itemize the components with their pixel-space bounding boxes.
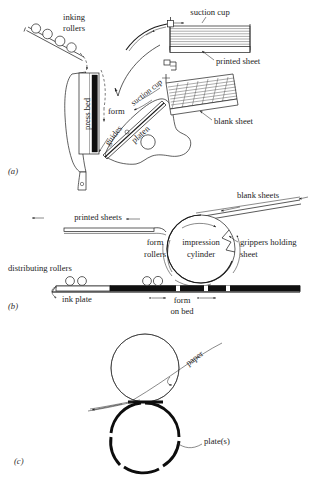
label-paper: paper — [184, 348, 205, 368]
label-grippers-line2: sheet — [240, 249, 258, 259]
inking-roller-1 — [31, 24, 40, 33]
printed-sheet-board — [170, 47, 250, 53]
label-printed-sheet: printed sheet — [216, 56, 261, 66]
blank-sheet-leader — [200, 111, 212, 120]
label-form-rollers-line2: rollers — [144, 249, 167, 259]
panel-c-id: (c) — [14, 456, 24, 466]
plate-cylinder-group — [111, 403, 179, 473]
form-roller-1 — [143, 277, 152, 286]
paper-exit-arrow — [92, 404, 122, 410]
form-strip — [92, 75, 97, 152]
panel-c-diagram: paper plate(s) (c) — [14, 334, 230, 473]
label-form-rollers-line1: form — [147, 237, 164, 247]
label-form-on-bed-line2: on bed — [170, 306, 194, 316]
label-distributing-rollers: distributing rollers — [8, 263, 72, 273]
plates-leader — [177, 443, 202, 448]
label-form: form — [108, 106, 125, 116]
inking-roller-4 — [67, 43, 76, 52]
panel-a-id: (a) — [8, 166, 18, 176]
label-blank-sheets: blank sheets — [237, 190, 280, 200]
bed-travel-arc — [101, 70, 105, 108]
blank-sheets-arrow-right — [299, 197, 308, 199]
label-inking-rollers-line2: rollers — [63, 23, 86, 33]
label-inking-rollers-line1: inking — [63, 12, 86, 22]
label-plates: plate(s) — [204, 436, 230, 446]
label-blank-sheet: blank sheet — [214, 116, 254, 126]
figure-canvas: inking rollers press bed form — [0, 0, 314, 489]
panel-b-diagram: blank sheets printed sheets — [8, 190, 308, 316]
ink-plate — [56, 286, 110, 291]
printed-sheets-exit-group — [64, 228, 166, 235]
suction-cup-head-lower — [164, 60, 170, 65]
label-impression-cylinder-line2: cylinder — [187, 249, 215, 259]
form-roller-2 — [153, 276, 162, 285]
panel-b-id: (b) — [8, 301, 18, 311]
distributing-roller-2 — [78, 277, 87, 286]
blank-sheet-stack-group — [166, 74, 238, 115]
label-printed-sheets: printed sheets — [74, 212, 122, 222]
label-suction-cup-top: suction cup — [190, 7, 229, 17]
label-grippers-line1: grippers holding — [240, 237, 297, 247]
inking-roller-3 — [55, 36, 65, 46]
suction-cup-top-leader — [202, 17, 206, 23]
label-ink-plate: ink plate — [62, 294, 92, 304]
suction-cup-arm-group — [162, 60, 176, 83]
inking-roller-2 — [43, 29, 53, 39]
press-leg — [78, 172, 86, 190]
label-impression-cylinder-line1: impression — [182, 237, 220, 247]
printed-sheet-stack-group — [126, 17, 250, 53]
impression-cylinder-c — [111, 334, 179, 402]
label-form-on-bed-line1: form — [174, 295, 191, 305]
panel-a-diagram: inking rollers press bed form — [8, 7, 261, 190]
suction-cup-head-top — [168, 21, 174, 27]
distributing-roller-1 — [66, 277, 75, 286]
label-press-bed: press bed — [82, 97, 92, 130]
printed-sheet-web — [64, 228, 154, 231]
